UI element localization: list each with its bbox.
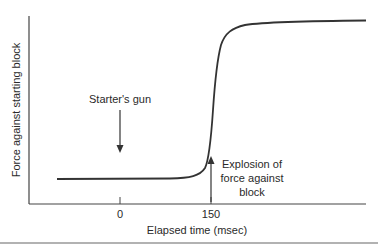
x-axis-label: Elapsed time (msec) [147,224,247,236]
y-axis-label: Force against starting block [10,42,22,177]
arrow-down-icon [117,145,124,153]
explosion-label-line3: block [239,186,265,198]
force-time-diagram: 0 150 Elapsed time (msec) Force against … [0,0,378,248]
explosion-label-line2: force against [221,172,284,184]
axes [29,16,366,204]
starter-gun-label: Starter's gun [89,93,151,105]
explosion-label-line1: Explosion of [222,158,283,170]
x-tick-label-150: 150 [202,208,220,220]
x-tick-label-0: 0 [117,208,123,220]
